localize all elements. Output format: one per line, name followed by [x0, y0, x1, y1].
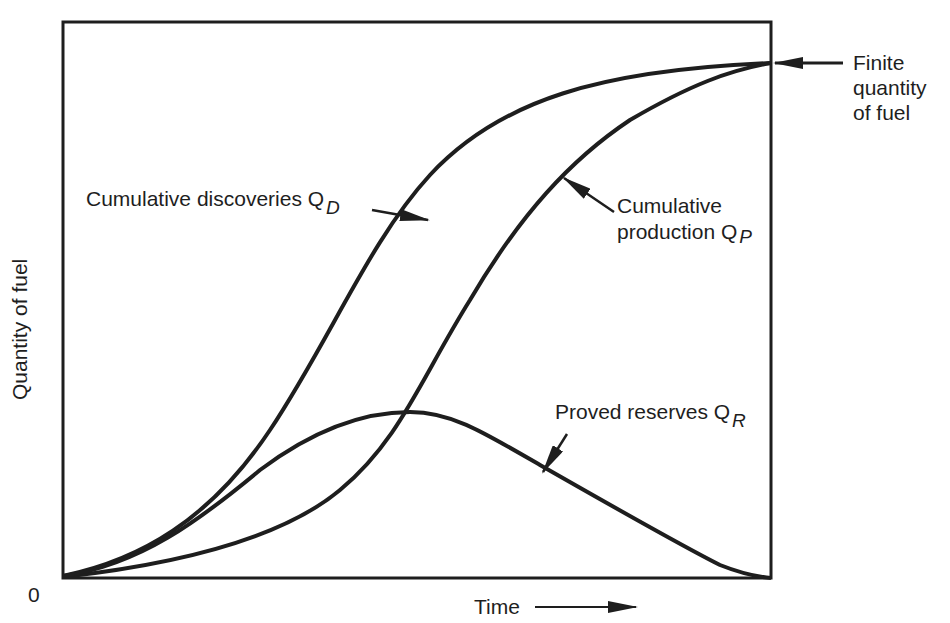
reserves-text: Proved reserves Q [555, 400, 730, 423]
discoveries-subscript: D [326, 197, 340, 218]
production-line-1: Cumulative [617, 193, 752, 219]
finite-line-1: Finite [853, 50, 927, 75]
curve-proved-reserves [63, 412, 771, 578]
production-subscript: P [739, 226, 752, 247]
y-axis-label: Quantity of fuel [8, 259, 32, 400]
discoveries-text: Cumulative discoveries Q [86, 187, 324, 210]
production-label: Cumulative production QP [617, 193, 752, 246]
origin-label: 0 [28, 583, 40, 607]
finite-line-3: of fuel [853, 100, 927, 125]
production-line-2: production Q [617, 220, 737, 243]
reserves-label: Proved reserves QR [555, 400, 746, 425]
finite-quantity-label: Finite quantity of fuel [853, 50, 927, 125]
plot-frame [63, 22, 771, 578]
reserves-subscript: R [732, 410, 746, 431]
reserves-leader-arrow [543, 434, 567, 472]
discoveries-label: Cumulative discoveries QD [86, 187, 340, 212]
x-axis-label: Time [474, 595, 520, 619]
curve-cumulative-production [63, 63, 771, 577]
curve-cumulative-discoveries [63, 63, 771, 576]
diagram-canvas [0, 0, 950, 623]
production-leader-arrow [564, 178, 614, 212]
finite-line-2: quantity [853, 75, 927, 100]
